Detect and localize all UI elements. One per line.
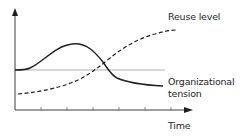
series-label-reuse-level: Reuse level: [168, 11, 220, 22]
y-axis: [12, 8, 18, 110]
series-organizational-tension: [15, 44, 163, 86]
series-label-organizational-tension-line1: Organizational: [168, 76, 234, 87]
x-axis-arrow-icon: [184, 107, 193, 113]
y-axis-arrow-icon: [12, 8, 18, 16]
x-axis-label: Time: [168, 120, 190, 131]
x-axis: [15, 107, 193, 113]
series-reuse-level: [18, 30, 176, 94]
series-label-organizational-tension-line2: tension: [168, 88, 202, 99]
